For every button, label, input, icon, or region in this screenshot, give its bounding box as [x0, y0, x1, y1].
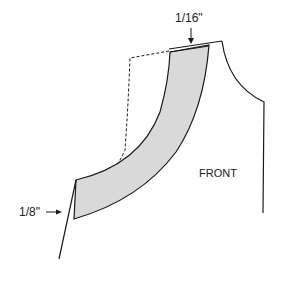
panel-label-front: FRONT: [199, 167, 237, 179]
measure-left-label: 1/8": [19, 205, 40, 219]
measure-top-label: 1/16": [175, 11, 203, 25]
armhole-curve: [222, 41, 264, 213]
arrow-left-head-icon: [56, 210, 62, 215]
arrow-top-head-icon: [188, 38, 194, 44]
neckline-facing-diagram: 1/16" 1/8" FRONT: [0, 0, 281, 282]
facing-band: [74, 45, 209, 219]
